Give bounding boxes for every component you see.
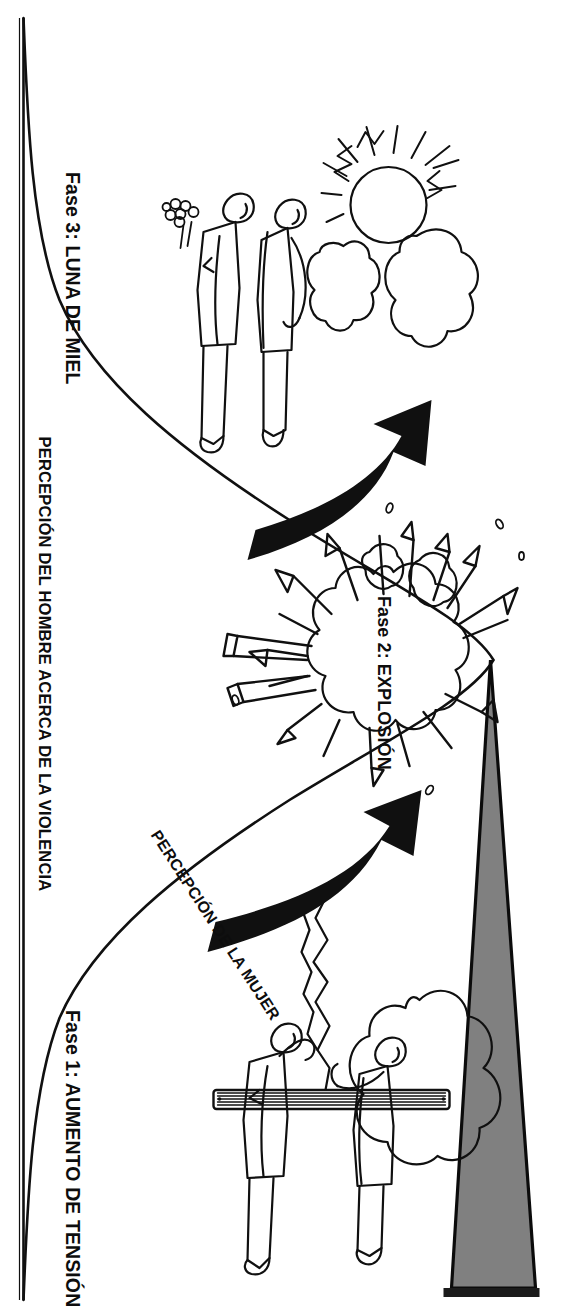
couple-embracing-figure: [162, 194, 305, 453]
page-border: [19, 18, 23, 1300]
diagram-artwork: [0, 0, 579, 1314]
sun-icon: [321, 126, 458, 243]
person-figure-man: [331, 1038, 405, 1265]
arrow-fase1-to-fase2: [207, 790, 421, 952]
flower-bouquet-icon: [162, 199, 198, 248]
cloud-upper-icon: [385, 229, 478, 346]
phase-label-fase-2: Fase 2: EXPLOSIÓN: [372, 596, 393, 770]
phase-label-fase-1: Fase 1: AUMENTO DE TENSIÓN: [60, 1010, 83, 1307]
lightning-bolt-icon: [213, 1090, 449, 1109]
person-figure-woman: [243, 1024, 314, 1275]
diagram-canvas: Fase 3: LUNA DE MIEL Fase 2: EXPLOSIÓN F…: [0, 0, 579, 1314]
axis-label-percepcion-hombre: PERCEPCIÓN DEL HOMBRE ACERCA DE LA VIOLE…: [34, 437, 53, 892]
phase-label-fase-3: Fase 3: LUNA DE MIEL: [60, 172, 83, 385]
violence-perception-wedge: [443, 660, 539, 1297]
cloud-lower-icon: [307, 242, 379, 331]
